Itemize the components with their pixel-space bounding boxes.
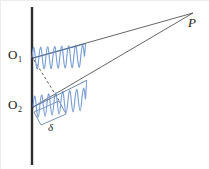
- interference-diagram: O1 O2 P δ: [0, 0, 209, 169]
- wave-lower-curve: [33, 80, 87, 117]
- label-point-p: P: [188, 16, 196, 29]
- label-source-o1: O1: [8, 48, 21, 61]
- label-source-o2: O2: [8, 98, 21, 111]
- diagram-canvas: [0, 0, 209, 169]
- wave-train-lower: [33, 80, 87, 117]
- slit-marker-lower: [32, 107, 34, 109]
- label-path-difference-delta: δ: [48, 122, 53, 133]
- slit-marker-upper: [32, 58, 34, 60]
- wave-train-upper: [32, 44, 86, 70]
